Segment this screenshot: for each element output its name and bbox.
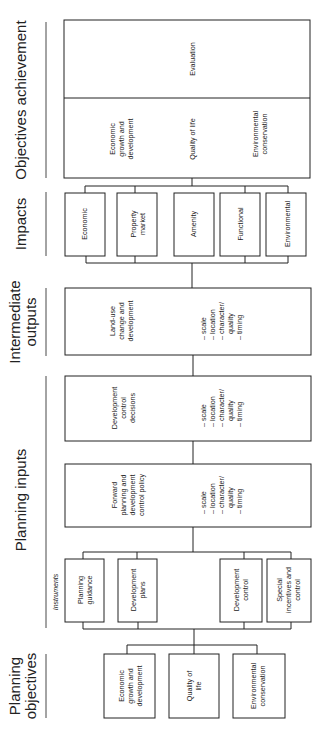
svg-text:life: life (194, 681, 203, 690)
svg-text:– character/: – character/ (217, 389, 226, 427)
instrument-development-control: Development control (220, 559, 262, 622)
svg-text:conservation: conservation (258, 666, 267, 707)
svg-text:– timing: – timing (235, 489, 244, 514)
svg-text:Planning: Planning (6, 657, 23, 715)
connector (85, 178, 288, 193)
svg-text:Development: Development (232, 569, 241, 611)
svg-text:– location: – location (208, 396, 217, 427)
svg-text:development: development (126, 300, 135, 341)
svg-text:– scale: – scale (199, 404, 208, 427)
instruments-label: Instruments (52, 573, 59, 610)
svg-text:incentives and: incentives and (284, 567, 293, 613)
svg-text:control: control (119, 397, 128, 419)
objectives-achievement-box: Evaluation Economic growth and developme… (64, 20, 310, 178)
svg-text:control: control (293, 579, 302, 601)
svg-text:Forward: Forward (110, 482, 119, 508)
svg-text:– character/: – character/ (217, 302, 226, 340)
instrument-development-plans: Development plans (118, 559, 157, 622)
impact-property-market: Property market (117, 193, 157, 256)
svg-text:Land-use: Land-use (108, 306, 117, 336)
svg-text:outputs: outputs (22, 297, 39, 346)
svg-text:Intermediate: Intermediate (6, 280, 23, 363)
planning-process-diagram: Objectives achievement Impacts Intermedi… (0, 0, 334, 747)
svg-text:objectives: objectives (22, 653, 39, 720)
svg-text:– timing: – timing (235, 402, 244, 427)
outcome-environmental: Environmental conservation (251, 111, 269, 157)
impact-economic: Economic (65, 193, 105, 256)
svg-text:development: development (126, 118, 135, 159)
svg-text:growth and: growth and (126, 668, 135, 704)
svg-text:quality: quality (226, 487, 235, 508)
svg-text:Economic: Economic (117, 670, 126, 702)
svg-text:Quality of life: Quality of life (188, 118, 197, 160)
instrument-special-incentives: Special incentives and control (267, 559, 311, 622)
outcome-quality-of-life: Quality of life (188, 118, 197, 160)
svg-text:Impacts: Impacts (12, 198, 29, 251)
outcome-economic: Economic growth and development (108, 118, 135, 159)
svg-text:– scale: – scale (199, 317, 208, 340)
svg-text:Development: Development (110, 387, 119, 429)
stage-label-planning-objectives: Planning objectives (6, 653, 39, 720)
svg-text:Objectives achievement: Objectives achievement (12, 20, 29, 180)
impact-environmental: Environmental (266, 193, 306, 256)
svg-text:Economic: Economic (108, 123, 117, 155)
svg-text:change and: change and (117, 302, 126, 340)
svg-text:control: control (241, 579, 250, 601)
svg-text:Environmental: Environmental (283, 201, 292, 247)
impact-amenity: Amenity (174, 193, 214, 256)
svg-text:quality: quality (226, 400, 235, 421)
svg-text:development: development (135, 665, 144, 706)
impact-functional: Functional (220, 193, 260, 256)
connector (83, 622, 291, 654)
svg-text:market: market (138, 213, 147, 235)
svg-text:planning and: planning and (119, 474, 128, 515)
forward-planning-box: Forward planning and development control… (65, 464, 311, 527)
svg-text:– scale: – scale (199, 491, 208, 514)
svg-text:Planning inputs: Planning inputs (12, 449, 29, 552)
svg-text:Special: Special (275, 578, 284, 602)
svg-text:Functional: Functional (236, 207, 245, 241)
objective-economic-growth: Economic growth and development (104, 654, 155, 718)
stage-label-intermediate-outputs: Intermediate outputs (6, 280, 39, 363)
instrument-planning-guidance: Planning guidance (65, 559, 104, 622)
svg-text:control policy: control policy (137, 474, 146, 516)
stage-label-planning-inputs: Planning inputs (12, 449, 29, 552)
connector (86, 256, 288, 288)
svg-text:Quality of: Quality of (185, 671, 194, 701)
intermediate-outputs-box: Land-use change and development – scale … (65, 288, 311, 355)
svg-text:quality: quality (226, 313, 235, 334)
svg-text:decisions: decisions (128, 393, 137, 423)
svg-text:growth and: growth and (117, 121, 126, 157)
svg-text:guidance: guidance (85, 575, 94, 604)
svg-text:conservation: conservation (260, 114, 269, 155)
svg-text:Economic: Economic (80, 208, 89, 240)
stage-label-impacts: Impacts (12, 198, 29, 251)
svg-text:– location: – location (208, 483, 217, 514)
objective-quality-of-life: Quality of life (169, 654, 219, 718)
svg-text:Development: Development (129, 569, 138, 611)
development-control-decisions-box: Development control decisions – scale – … (65, 376, 311, 441)
svg-text:Planning: Planning (76, 576, 85, 604)
svg-text:development: development (128, 474, 137, 515)
svg-text:Environmental: Environmental (249, 663, 258, 709)
svg-text:Environmental: Environmental (251, 111, 260, 157)
svg-text:Property: Property (129, 210, 138, 238)
svg-text:plans: plans (138, 581, 147, 599)
objective-environmental-conservation: Environmental conservation (233, 654, 285, 718)
svg-text:Amenity: Amenity (189, 211, 198, 237)
stage-label-objectives-achievement: Objectives achievement (12, 20, 29, 180)
connector (83, 527, 291, 559)
svg-text:– timing: – timing (235, 315, 244, 340)
evaluation-label: Evaluation (188, 42, 197, 76)
svg-text:– location: – location (208, 309, 217, 340)
svg-text:– character/: – character/ (217, 476, 226, 514)
